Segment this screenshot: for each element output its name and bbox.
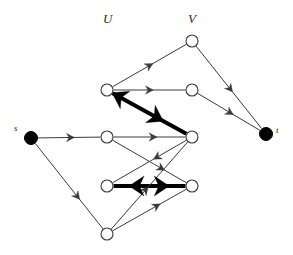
edge-u1-to-v1-arrowhead-1 [144,64,153,72]
sink-label: t [276,126,279,135]
graph-canvas [0,0,293,255]
u-node-2[interactable] [101,131,113,143]
edge-u4-to-v4 [113,189,187,231]
edge-s-to-u4-arrowhead-1 [71,191,79,200]
source-label: s [14,124,18,133]
edge-v1-to-t [196,46,262,128]
sink-node[interactable] [260,128,273,141]
v-node-4[interactable] [186,180,198,192]
edge-s-to-u4 [35,143,103,228]
v-node-1[interactable] [186,35,198,47]
set-label-v: V [188,12,196,25]
source-node[interactable] [25,132,38,145]
edge-v2-to-t-arrowhead-1 [224,107,233,115]
edge-v3-to-u1 [113,93,187,134]
v-node-3[interactable] [186,131,198,143]
edge-u2-to-v4-arrowhead-1 [156,163,165,171]
edge-v3-to-u3-arrowhead-1 [153,152,162,160]
u-node-1[interactable] [101,84,113,96]
flow-network-figure: U V s t [0,0,293,255]
u-node-3[interactable] [101,180,113,192]
u-node-4[interactable] [101,228,113,240]
set-label-u: U [103,12,112,25]
v-node-2[interactable] [186,84,198,96]
